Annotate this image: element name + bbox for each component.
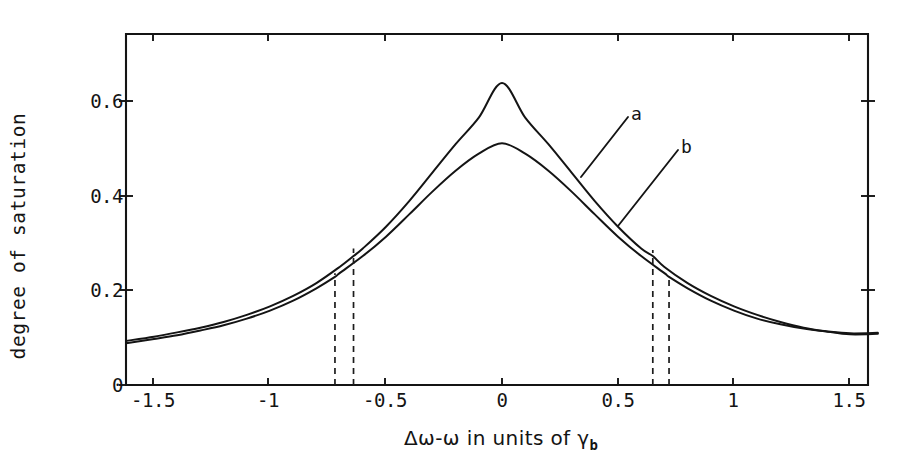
curve-b bbox=[126, 143, 878, 343]
ytick-label-0: 0 bbox=[112, 374, 123, 396]
curve-label-a: a bbox=[631, 103, 642, 124]
ytick-label-0.4: 0.4 bbox=[90, 185, 123, 207]
curve-a bbox=[126, 83, 878, 341]
gamma-symbol: γ bbox=[577, 426, 589, 450]
xtick-label-neg1.5: -1.5 bbox=[131, 389, 175, 411]
x-axis-label-prefix: Δω-ω in units of bbox=[404, 426, 577, 450]
figure-root: 0 0.2 0.4 0.6 -1.5 -1 -0.5 0 0.5 1 1.5 d… bbox=[0, 0, 909, 473]
y-axis-label: degree of saturation bbox=[7, 113, 30, 360]
xtick-label-1: 1 bbox=[728, 389, 739, 411]
x-axis-label: Δω-ω in units of γb bbox=[404, 426, 598, 453]
ytick-label-0.6: 0.6 bbox=[90, 90, 123, 112]
xtick-label-0: 0 bbox=[497, 389, 508, 411]
xtick-label-neg0.5: -0.5 bbox=[363, 389, 407, 411]
ytick-label-0.2: 0.2 bbox=[90, 279, 123, 301]
xtick-label-0.5: 0.5 bbox=[602, 389, 635, 411]
xtick-label-neg1: -1 bbox=[257, 389, 279, 411]
curve-label-b: b bbox=[681, 136, 692, 157]
dashed-markers bbox=[335, 248, 669, 385]
gamma-subscript: b bbox=[590, 437, 598, 453]
xtick-label-1.5: 1.5 bbox=[833, 389, 866, 411]
leader-line-b bbox=[618, 150, 678, 226]
leader-line-a bbox=[581, 117, 628, 177]
